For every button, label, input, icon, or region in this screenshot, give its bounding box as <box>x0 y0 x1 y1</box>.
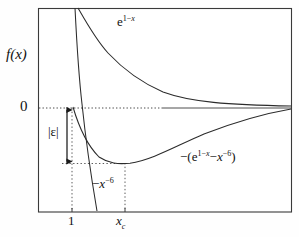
figure-panel: f(x) 0 |ε| e1−x −x−6 −(e1−x−x−6) 1 xc <box>0 0 299 237</box>
x-tick-label-one: 1 <box>68 214 75 227</box>
zero-axis-value: 0 <box>20 99 28 114</box>
curve-label-combined: −(e1−x−x−6) <box>180 150 236 163</box>
epsilon-label: |ε| <box>48 125 59 138</box>
curve-label-pow: −x−6 <box>92 177 114 190</box>
y-axis-label: f(x) <box>6 47 27 62</box>
x-tick-label-xc: xc <box>116 214 125 231</box>
curve-label-exp: e1−x <box>117 15 135 28</box>
plot-canvas <box>0 0 299 237</box>
